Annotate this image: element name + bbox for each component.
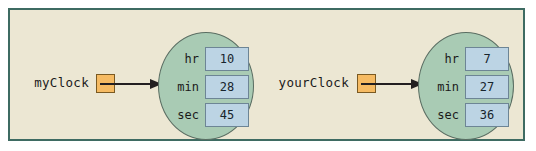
field-row-sec: sec 36 [425,102,513,128]
object-group-myclock: myClock hr 10 min 28 sec 45 [10,10,255,139]
field-row-hr: hr 10 [165,46,253,72]
variable-label-myclock: myClock [10,72,89,94]
field-row-min: min 27 [425,74,513,100]
field-value-sec: 36 [465,103,509,127]
field-name-min: min [165,81,205,93]
object-circle-yourclock: hr 7 min 27 sec 36 [418,32,514,140]
variable-label-yourclock: yourClock [272,72,349,94]
pointer-cell-icon-yourclock[interactable] [357,74,376,93]
field-list-yourclock: hr 7 min 27 sec 36 [425,46,513,128]
field-list-myclock: hr 10 min 28 sec 45 [165,46,253,128]
field-name-sec: sec [165,109,205,121]
field-name-sec: sec [425,109,465,121]
field-name-hr: hr [165,53,205,65]
field-row-hr: hr 7 [425,46,513,72]
diagram-frame: myClock hr 10 min 28 sec 45 [8,8,525,141]
field-value-hr: 10 [205,47,249,71]
field-name-hr: hr [425,53,465,65]
field-value-hr: 7 [465,47,509,71]
field-value-min: 28 [205,75,249,99]
field-value-min: 27 [465,75,509,99]
field-row-min: min 28 [165,74,253,100]
field-row-sec: sec 45 [165,102,253,128]
field-value-sec: 45 [205,103,249,127]
object-circle-myclock: hr 10 min 28 sec 45 [158,32,254,140]
object-group-yourclock: yourClock hr 7 min 27 sec 36 [258,10,527,139]
pointer-cell-icon-myclock[interactable] [96,74,115,93]
field-name-min: min [425,81,465,93]
